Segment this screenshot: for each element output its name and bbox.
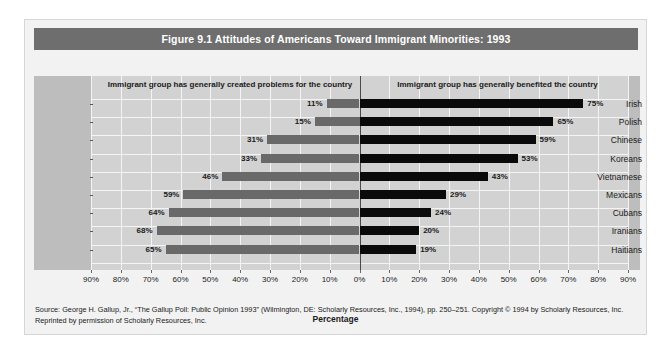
x-axis-tick-label: 10% [315,275,345,284]
bar-right [360,172,488,181]
bar-value-left: 31% [229,135,263,144]
x-axis-tick [210,270,211,273]
x-axis-tick [270,270,271,273]
legend-label-problems: Immigrant group has generally created pr… [99,80,361,90]
x-axis-tick [240,270,241,273]
bar-right [360,99,584,108]
category-label: Vietnamese [590,170,646,184]
bar-left [169,208,360,217]
category-label: Polish [590,115,646,129]
gridline-vertical [181,76,182,270]
x-axis-tick [360,270,361,273]
bar-value-right: 53% [522,154,556,163]
bar-left [261,154,359,163]
x-axis-tick-label: 50% [195,275,225,284]
bar-right [360,135,536,144]
category-tick [90,122,93,123]
bar-left [222,172,359,181]
bar-value-left: 64% [131,208,165,217]
bar-value-right: 24% [435,208,469,217]
bar-left [157,226,360,235]
category-tick [90,159,93,160]
bar-value-right: 29% [450,190,484,199]
category-label-band [34,76,91,270]
category-tick [90,177,93,178]
gridline-vertical [151,76,152,270]
bar-value-left: 11% [289,99,323,108]
bar-value-left: 59% [145,190,179,199]
bar-value-left: 65% [128,245,162,254]
gridline-vertical [121,76,122,270]
bar-value-right: 20% [423,226,457,235]
category-label: Irish [590,97,646,111]
bar-value-right: 65% [557,117,591,126]
x-axis-tick [598,270,599,273]
bar-left [183,190,359,199]
category-label: Iranians [590,224,646,238]
bar-right [360,154,518,163]
plot-area: Immigrant group has generally created pr… [91,76,628,270]
x-axis-tick [568,270,569,273]
x-axis-tick [330,270,331,273]
figure-card: Figure 9.1 Attitudes of Americans Toward… [24,19,647,335]
category-label: Mexicans [590,188,646,202]
x-axis-tick-label: 30% [255,275,285,284]
x-axis-tick [419,270,420,273]
bar-value-left: 68% [119,226,153,235]
x-axis-tick-label: 90% [613,275,643,284]
x-axis-tick [509,270,510,273]
x-axis-tick [539,270,540,273]
x-axis-tick [121,270,122,273]
category-label: Haitians [590,243,646,257]
bar-right [360,208,432,217]
x-axis-tick-label: 0% [345,275,375,284]
bar-right [360,226,420,235]
x-axis-tick-label: 80% [583,275,613,284]
x-axis-tick-label: 60% [524,275,554,284]
x-axis-tick-label: 60% [166,275,196,284]
chart-region: Immigrant group has generally created pr… [25,62,646,292]
x-axis-tick-label: 20% [404,275,434,284]
x-axis-tick [628,270,629,273]
x-axis-tick [479,270,480,273]
legend-label-benefited: Immigrant group has generally benefited … [376,80,619,90]
x-axis-tick-label: 50% [494,275,524,284]
x-axis-tick [91,270,92,273]
bar-value-right: 59% [540,135,574,144]
x-axis-tick-label: 70% [553,275,583,284]
category-label: Chinese [590,133,646,147]
x-axis-tick-label: 40% [225,275,255,284]
category-tick [90,250,93,251]
x-axis: 90%80%70%60%50%40%30%20%10%0%10%20%30%40… [91,270,628,276]
bar-left [327,99,360,108]
bar-left [267,135,359,144]
category-tick [90,213,93,214]
bar-value-left: 46% [184,172,218,181]
source-note: Source: George H. Gallup, Jr., “The Gall… [35,305,635,327]
figure-title: Figure 9.1 Attitudes of Americans Toward… [34,28,638,50]
category-tick [90,231,93,232]
gridline-vertical [91,76,92,270]
x-axis-tick [181,270,182,273]
bar-value-right: 43% [492,172,526,181]
x-axis-tick-label: 20% [285,275,315,284]
source-line-1: Source: George H. Gallup, Jr., “The Gall… [35,305,570,314]
category-tick [90,140,93,141]
x-axis-tick [389,270,390,273]
x-axis-tick-label: 90% [76,275,106,284]
category-label: Cubans [590,206,646,220]
x-axis-tick-label: 80% [106,275,136,284]
bar-left [166,245,360,254]
bar-value-left: 15% [277,117,311,126]
bar-right [360,190,447,199]
bar-value-right: 19% [420,245,454,254]
category-tick [90,104,93,105]
x-axis-tick-label: 30% [434,275,464,284]
x-axis-tick [449,270,450,273]
x-axis-tick-label: 10% [374,275,404,284]
x-axis-tick [151,270,152,273]
category-label: Koreans [590,152,646,166]
bar-right [360,245,417,254]
x-axis-tick-label: 40% [464,275,494,284]
x-axis-tick-label: 70% [136,275,166,284]
